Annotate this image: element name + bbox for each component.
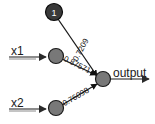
- diagram-canvas: 1 x1 x2 output 0.7209 0.87571 0.76098: [0, 0, 155, 124]
- node-hidden-x2[interactable]: [49, 101, 64, 116]
- node-hidden-x1[interactable]: [49, 49, 64, 64]
- node-bias-label: 1: [51, 8, 56, 18]
- input-label-x2: x2: [11, 96, 24, 110]
- neural-network-diagram: 1 x1 x2 output 0.7209 0.87571 0.76098: [0, 0, 155, 124]
- node-output[interactable]: [96, 72, 111, 87]
- node-hidden-x2-circle: [49, 101, 64, 116]
- node-hidden-x1-circle: [49, 49, 64, 64]
- node-bias[interactable]: 1: [46, 4, 63, 21]
- output-label: output: [113, 66, 147, 80]
- node-output-circle: [96, 72, 111, 87]
- input-label-x1: x1: [11, 44, 24, 58]
- weight-label-hidden-x2-to-output: 0.76098: [61, 85, 91, 108]
